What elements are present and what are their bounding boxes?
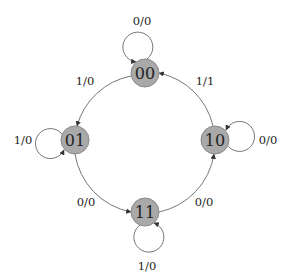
state-node-11: 11 bbox=[131, 198, 159, 226]
edge-label-10-00: 1/1 bbox=[196, 74, 215, 88]
state-node-00: 00 bbox=[131, 59, 159, 87]
state-diagram: 00 01 11 10 0/0 1/0 1/0 0/0 1/0 0/0 0/0 … bbox=[0, 0, 289, 280]
state-label: 10 bbox=[205, 131, 225, 150]
edge-label-11-10: 0/0 bbox=[195, 195, 214, 209]
loop-10 bbox=[226, 121, 255, 151]
edge-label-00-00: 0/0 bbox=[133, 14, 152, 28]
edge-label-01-01: 1/0 bbox=[14, 133, 33, 147]
edge-label-01-11: 0/0 bbox=[77, 195, 96, 209]
edge-label-00-01: 1/0 bbox=[76, 74, 95, 88]
edge-label-10-10: 0/0 bbox=[259, 133, 278, 147]
edge-label-11-11: 1/0 bbox=[138, 259, 157, 273]
loop-00 bbox=[123, 32, 153, 62]
loop-11 bbox=[134, 223, 164, 252]
state-label: 11 bbox=[135, 203, 155, 222]
state-node-10: 10 bbox=[201, 126, 229, 154]
state-label: 01 bbox=[65, 131, 85, 150]
state-label: 00 bbox=[135, 64, 155, 83]
state-node-01: 01 bbox=[61, 126, 89, 154]
loop-01 bbox=[35, 129, 64, 159]
